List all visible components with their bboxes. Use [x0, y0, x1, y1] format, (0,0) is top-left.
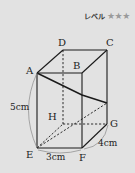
height-label: 5cm — [10, 103, 29, 112]
vertex-F: F — [79, 153, 86, 163]
edge-BC — [82, 50, 107, 73]
vertex-A: A — [26, 66, 33, 76]
vertex-G: G — [110, 119, 118, 129]
string-path — [37, 73, 107, 103]
diagonal-dashed-line — [37, 103, 107, 148]
vertex-C: C — [106, 38, 114, 48]
edge-AD — [37, 50, 63, 73]
depth-label: 4cm — [98, 139, 117, 148]
width-label: 3cm — [46, 153, 65, 162]
edge-EH — [37, 124, 63, 148]
problem-card: レベル ★★★ D C A B H G — [0, 0, 135, 173]
vertex-B: B — [73, 61, 80, 71]
height-arc — [29, 73, 38, 148]
vertex-H: H — [48, 112, 57, 122]
vertex-D: D — [58, 38, 66, 48]
vertex-E: E — [26, 150, 33, 160]
